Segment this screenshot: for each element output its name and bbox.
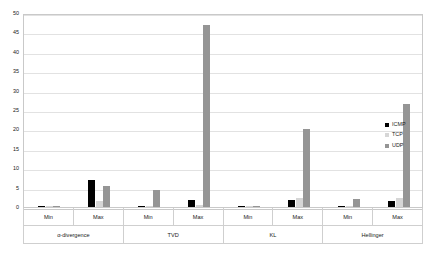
legend-label: TCP: [392, 132, 403, 137]
subcategory-label: Max: [73, 208, 123, 226]
group-label: Hellinger: [322, 226, 423, 244]
y-tick-label: 15: [13, 147, 19, 152]
group-label: α-divergence: [23, 226, 123, 244]
subcategory-label: Max: [173, 208, 223, 226]
y-tick-label: 25: [13, 108, 19, 113]
bar-udp: [303, 129, 310, 207]
group-label: TVD: [123, 226, 223, 244]
bar-udp: [53, 206, 60, 207]
bar-group: [74, 15, 124, 207]
bar-icmp: [38, 206, 45, 207]
y-tick-label: 30: [13, 89, 19, 94]
bar-tcp: [396, 198, 403, 207]
bar-tcp: [296, 198, 303, 207]
bar-group: [224, 15, 274, 207]
subcategory-label: Min: [123, 208, 173, 226]
bar-udp: [353, 199, 360, 207]
bar-tcp: [346, 206, 353, 207]
y-tick-label: 10: [13, 166, 19, 171]
bar-tcp: [96, 201, 103, 207]
y-tick-label: 40: [13, 50, 19, 55]
bar-tcp: [246, 206, 253, 207]
legend-swatch-icon: [385, 123, 389, 127]
y-tick-label: 45: [13, 31, 19, 36]
bar-icmp: [88, 180, 95, 207]
subcategory-label: Max: [372, 208, 423, 226]
bar-tcp: [146, 206, 153, 207]
bar-icmp: [338, 206, 345, 207]
bars-layer: [24, 15, 422, 207]
y-tick-label: 20: [13, 128, 19, 133]
subcategory-label: Min: [23, 208, 73, 226]
plot-area: [23, 14, 423, 208]
legend-swatch-icon: [385, 144, 389, 148]
group-label: KL: [223, 226, 323, 244]
bar-group: [324, 15, 374, 207]
bar-group: [24, 15, 74, 207]
bar-icmp: [238, 206, 245, 207]
bar-icmp: [188, 200, 195, 207]
bar-udp: [153, 190, 160, 207]
bar-group: [374, 15, 424, 207]
bar-icmp: [288, 200, 295, 207]
bar-chart: 05101520253035404550 MinMaxMinMaxMinMaxM…: [0, 0, 440, 266]
bar-tcp: [196, 205, 203, 207]
y-axis: 05101520253035404550: [0, 14, 21, 208]
y-tick-label: 35: [13, 69, 19, 74]
bar-group: [124, 15, 174, 207]
y-tick-label: 0: [16, 205, 19, 210]
legend-item: ICMP: [385, 122, 405, 127]
legend-item: TCP: [385, 132, 405, 137]
subcategory-row: MinMaxMinMaxMinMaxMinMax: [23, 208, 423, 226]
bar-udp: [403, 104, 410, 207]
legend-label: ICMP: [392, 122, 405, 127]
bar-icmp: [138, 206, 145, 207]
group-row: α-divergenceTVDKLHellinger: [23, 226, 423, 244]
legend-item: UDP: [385, 143, 405, 148]
subcategory-label: Min: [223, 208, 273, 226]
bar-group: [174, 15, 224, 207]
bar-tcp: [46, 206, 53, 207]
bar-group: [274, 15, 324, 207]
legend-label: UDP: [392, 143, 403, 148]
bar-icmp: [388, 201, 395, 207]
legend: ICMPTCPUDP: [385, 122, 405, 148]
bar-udp: [203, 25, 210, 207]
subcategory-label: Min: [322, 208, 372, 226]
subcategory-label: Max: [272, 208, 322, 226]
bar-udp: [103, 186, 110, 207]
y-tick-label: 50: [13, 11, 19, 16]
y-tick-label: 5: [16, 186, 19, 191]
legend-swatch-icon: [385, 133, 389, 137]
bar-udp: [253, 206, 260, 207]
category-axis: MinMaxMinMaxMinMaxMinMax α-divergenceTVD…: [23, 208, 423, 244]
